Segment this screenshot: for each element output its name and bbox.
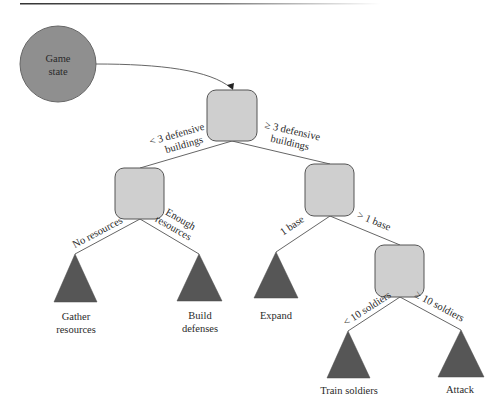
leaf-triangle-train bbox=[327, 331, 370, 378]
top-rule bbox=[20, 3, 380, 5]
decision-tree-diagram: Game state < 3 defensive buildings ≥ 3 d… bbox=[0, 0, 502, 416]
game-state-node bbox=[20, 26, 96, 102]
arrowhead-icon bbox=[227, 83, 234, 90]
game-state-label-1: Game bbox=[45, 53, 70, 64]
leaf-triangle-build bbox=[177, 254, 222, 301]
leaf-label-gather-2: resources bbox=[56, 324, 96, 335]
edge-label-lt10-soldiers: < 10 soldiers bbox=[341, 289, 393, 328]
leaf-triangle-gather bbox=[54, 254, 97, 302]
decision-node-right bbox=[305, 164, 354, 216]
decision-node-left bbox=[115, 168, 164, 219]
start-arrow-edge bbox=[96, 64, 231, 88]
leaf-label-attack: Attack bbox=[446, 384, 475, 395]
edge-label-1-base: 1 base bbox=[278, 213, 306, 237]
leaf-label-gather-1: Gather bbox=[62, 311, 91, 322]
leaf-triangle-expand bbox=[254, 252, 298, 298]
leaf-label-expand: Expand bbox=[260, 310, 293, 321]
decision-node-root bbox=[207, 90, 257, 141]
game-state-label-2: state bbox=[48, 66, 68, 77]
decision-node-bottom bbox=[375, 245, 424, 297]
leaf-label-build-1: Build bbox=[188, 310, 212, 321]
leaf-triangle-attack bbox=[438, 330, 484, 377]
leaf-label-build-2: defenses bbox=[182, 323, 218, 334]
leaf-label-train: Train soldiers bbox=[320, 385, 378, 396]
